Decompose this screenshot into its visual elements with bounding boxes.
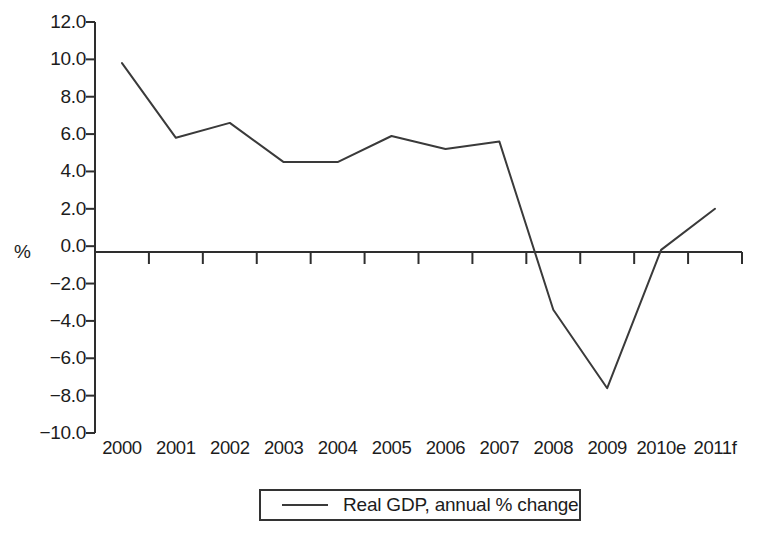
y-axis-ticks [86, 22, 95, 433]
x-tick-label: 2006 [426, 437, 466, 459]
legend-label-real-gdp: Real GDP, annual % change [343, 494, 578, 516]
x-tick-label: 2011f [694, 437, 737, 459]
gdp-line-chart: % 12.010.08.06.04.02.00.0−2.0−4.0−6.0−8.… [0, 0, 766, 548]
x-tick-label: 2007 [480, 437, 520, 459]
axis-lines [95, 22, 742, 433]
x-axis-tick-labels: 2000200120022003200420052006200720082009… [0, 437, 766, 463]
x-tick-label: 2003 [264, 437, 304, 459]
x-tick-label: 2010e [636, 437, 685, 459]
x-axis-ticks [149, 252, 742, 264]
x-tick-label: 2002 [210, 437, 250, 459]
legend-line-sample [282, 504, 328, 506]
x-tick-label: 2000 [102, 437, 142, 459]
chart-legend: Real GDP, annual % change [259, 489, 581, 521]
x-tick-label: 2004 [318, 437, 358, 459]
plot-area [0, 0, 766, 548]
x-tick-label: 2009 [587, 437, 627, 459]
x-tick-label: 2001 [156, 437, 196, 459]
x-tick-label: 2005 [372, 437, 412, 459]
series-line-real-gdp [122, 63, 715, 388]
x-tick-label: 2008 [534, 437, 574, 459]
